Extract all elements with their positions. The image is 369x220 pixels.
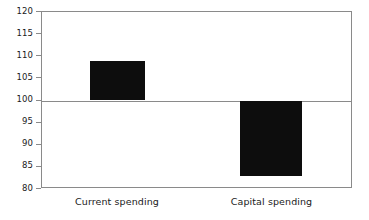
plot-area xyxy=(41,11,352,188)
y-axis-tick xyxy=(36,188,41,189)
y-axis-tick xyxy=(36,144,41,145)
y-axis-tick xyxy=(36,33,41,34)
y-axis-label: 100 xyxy=(0,95,33,104)
y-axis-tick xyxy=(36,100,41,101)
bar-current-spending[interactable] xyxy=(90,61,146,101)
y-axis-label: 110 xyxy=(0,51,33,60)
y-axis-label: 115 xyxy=(0,29,33,38)
bar-capital-spending[interactable] xyxy=(240,101,303,176)
y-axis-tick xyxy=(36,166,41,167)
y-axis-label: 95 xyxy=(0,117,33,126)
baseline-100 xyxy=(42,101,351,102)
y-axis-tick xyxy=(36,55,41,56)
y-axis-label: 80 xyxy=(0,184,33,193)
y-axis-tick xyxy=(36,77,41,78)
x-axis-label-0: Current spending xyxy=(57,196,177,207)
y-axis-label: 105 xyxy=(0,73,33,82)
bar-chart: 12011511010510095908580Current spendingC… xyxy=(0,0,369,220)
y-axis-label: 90 xyxy=(0,139,33,148)
y-axis-label: 85 xyxy=(0,161,33,170)
x-axis-label-1: Capital spending xyxy=(212,196,332,207)
y-axis-label: 120 xyxy=(0,7,33,16)
y-axis-tick xyxy=(36,122,41,123)
y-axis-tick xyxy=(36,11,41,12)
